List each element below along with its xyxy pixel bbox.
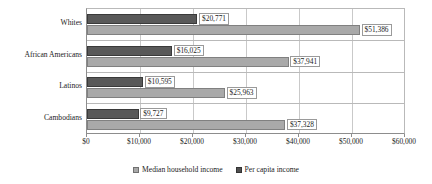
bar-group-cambodians: $9,727 $37,328: [87, 104, 404, 135]
bar-value-label: $9,727: [140, 108, 166, 120]
legend-item-label: Median household income: [142, 166, 223, 174]
x-axis-tick-label: $20,000: [180, 138, 204, 145]
x-axis-tick-label: $0: [82, 138, 89, 145]
x-axis-tick-label: $50,000: [339, 138, 363, 145]
bar-median-household-african-americans: [87, 57, 289, 67]
bar-value-label: $16,025: [174, 45, 204, 57]
bar-group-african-americans: $16,025 $37,941: [87, 41, 404, 72]
plot-area: $20,771 $51,386 $16,025 $37,941 $10,595 …: [86, 8, 405, 134]
bar-value-label: $51,386: [362, 24, 392, 36]
y-axis-tick-label: Cambodians: [44, 114, 82, 122]
legend-item-median-household-income[interactable]: Median household income: [133, 166, 223, 174]
bar-per-capita-african-americans: [87, 46, 172, 56]
bar-value-label: $20,771: [199, 13, 229, 25]
bar-group-latinos: $10,595 $25,963: [87, 72, 404, 103]
bar-median-household-cambodians: [87, 120, 285, 130]
bar-value-label: $25,963: [227, 87, 257, 99]
bar-value-label: $10,595: [145, 76, 175, 88]
per-capita-swatch-icon: [236, 167, 242, 173]
bar-chart: Whites African Americans Latinos Cambodi…: [0, 0, 432, 184]
x-axis-tick-label: $10,000: [127, 138, 151, 145]
median-swatch-icon: [133, 167, 139, 173]
bar-value-label: $37,328: [287, 119, 317, 131]
chart-legend: Median household income Per capita incom…: [0, 163, 432, 177]
x-axis-tick-labels: $0 $10,000 $20,000 $30,000 $40,000 $50,0…: [0, 138, 432, 150]
bar-value-label: $37,941: [290, 56, 320, 68]
y-axis-tick-label: Whites: [60, 19, 82, 27]
bar-median-household-latinos: [87, 88, 225, 98]
legend-item-per-capita-income[interactable]: Per capita income: [236, 166, 299, 174]
legend-item-label: Per capita income: [245, 166, 299, 174]
bar-per-capita-cambodians: [87, 109, 139, 119]
y-axis-tick-label: African Americans: [24, 51, 82, 59]
bar-median-household-whites: [87, 25, 360, 35]
bar-per-capita-whites: [87, 14, 197, 24]
y-axis-category-labels: Whites African Americans Latinos Cambodi…: [0, 8, 82, 134]
bar-group-whites: $20,771 $51,386: [87, 9, 404, 40]
bar-per-capita-latinos: [87, 77, 143, 87]
x-axis-tick-label: $40,000: [286, 138, 310, 145]
x-axis-tick-label: $60,000: [392, 138, 416, 145]
y-axis-tick-label: Latinos: [59, 82, 82, 90]
x-axis-tick-label: $30,000: [233, 138, 257, 145]
